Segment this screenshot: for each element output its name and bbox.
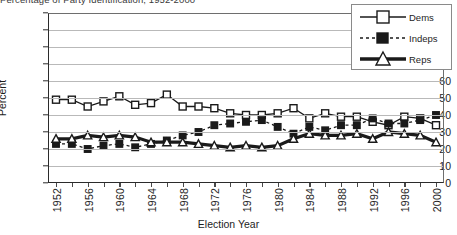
legend-item-dems[interactable]: Dems [352, 7, 453, 27]
y-axis-title: Percent [0, 80, 8, 116]
x-tick-mark [135, 183, 136, 187]
x-tick-label: 1992 [368, 188, 380, 212]
x-tick-mark [119, 183, 120, 187]
x-tick-mark [262, 183, 263, 187]
legend-item-reps[interactable]: Reps [352, 49, 453, 69]
x-tick-mark [373, 183, 374, 187]
x-tick-mark [183, 183, 184, 187]
x-tick-mark [357, 183, 358, 187]
x-tick-mark [72, 183, 73, 187]
x-axis-title: Election Year [0, 218, 457, 230]
x-tick-label: 1984 [304, 188, 316, 212]
x-tick-mark [104, 183, 105, 187]
x-tick-mark [309, 183, 310, 187]
x-tick-mark [294, 183, 295, 187]
x-tick-label: 1988 [336, 188, 348, 212]
x-tick-mark [246, 183, 247, 187]
legend-label-indeps: Indeps [409, 33, 438, 44]
x-tick-mark [230, 183, 231, 187]
x-tick-label: 1976 [241, 188, 253, 212]
legend-glyph-reps [358, 49, 408, 69]
x-tick-label: 1956 [83, 188, 95, 212]
x-tick-mark [436, 183, 437, 187]
x-tick-mark [325, 183, 326, 187]
legend-label-reps: Reps [409, 54, 431, 65]
x-tick-label: 1972 [209, 188, 221, 212]
x-tick-mark [151, 183, 152, 187]
x-tick-mark [420, 183, 421, 187]
x-tick-mark [56, 183, 57, 187]
x-tick-label: 1960 [114, 188, 126, 212]
legend-item-indeps[interactable]: Indeps [352, 28, 453, 48]
x-tick-label: 1980 [273, 188, 285, 212]
x-tick-label: 1996 [399, 188, 411, 212]
x-tick-mark [341, 183, 342, 187]
x-tick-label: 2000 [431, 188, 443, 212]
legend-glyph-dems [358, 7, 408, 27]
x-tick-mark [214, 183, 215, 187]
chart-figure: Percentage of Party Identification, 1952… [0, 0, 457, 235]
x-tick-label: 1964 [146, 188, 158, 212]
x-tick-mark [404, 183, 405, 187]
legend-glyph-indeps [358, 28, 408, 48]
x-tick-label: 1968 [178, 188, 190, 212]
x-tick-mark [88, 183, 89, 187]
y-tick-label: 0 [445, 177, 451, 189]
x-tick-label: 1952 [51, 188, 63, 212]
legend: Dems Indeps Reps [351, 4, 452, 70]
x-tick-mark [278, 183, 279, 187]
legend-label-dems: Dems [409, 12, 434, 23]
x-tick-mark [389, 183, 390, 187]
x-tick-mark [167, 183, 168, 187]
x-tick-mark [199, 183, 200, 187]
